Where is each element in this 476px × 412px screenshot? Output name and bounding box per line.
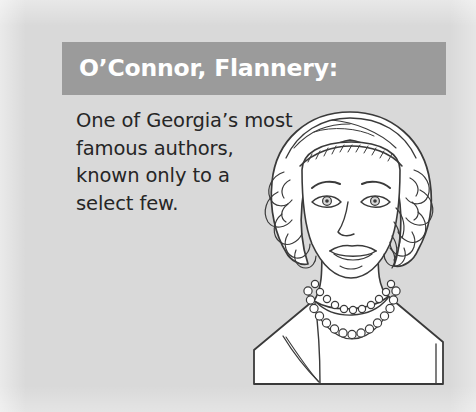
portrait-illustration	[228, 96, 476, 396]
flashcard-page: O’Connor, Flannery: One of Georgia’s mos…	[0, 0, 476, 412]
portrait-line-drawing-svg	[228, 96, 476, 396]
page-title: O’Connor, Flannery:	[79, 57, 338, 81]
header-bar: O’Connor, Flannery:	[62, 42, 446, 95]
face-shape	[302, 142, 400, 278]
